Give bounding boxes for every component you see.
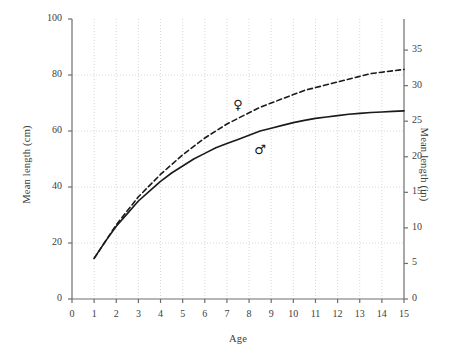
x-tick-label: 13 xyxy=(348,308,372,319)
x-tick-label: 0 xyxy=(60,308,84,319)
y-tick-label-right: 15 xyxy=(412,185,442,196)
x-tick-label: 7 xyxy=(215,308,239,319)
x-tick-label: 4 xyxy=(149,308,173,319)
y-tick-label-left: 20 xyxy=(32,236,62,247)
x-tick-label: 1 xyxy=(82,308,106,319)
y-tick-label-left: 100 xyxy=(32,12,62,23)
y-tick-label-left: 60 xyxy=(32,124,62,135)
x-tick-label: 12 xyxy=(326,308,350,319)
y-tick-label-right: 30 xyxy=(412,79,442,90)
y-tick-label-left: 40 xyxy=(32,180,62,191)
x-tick-label: 6 xyxy=(193,308,217,319)
x-tick-label: 15 xyxy=(392,308,416,319)
x-tick-label: 2 xyxy=(104,308,128,319)
x-tick-label: 9 xyxy=(259,308,283,319)
series-marker-female: ♀ xyxy=(233,97,243,112)
y-tick-label-right: 0 xyxy=(412,292,442,303)
x-tick-label: 5 xyxy=(171,308,195,319)
x-tick-label: 3 xyxy=(126,308,150,319)
x-tick-label: 10 xyxy=(281,308,305,319)
x-tick-label: 8 xyxy=(237,308,261,319)
y-tick-label-right: 5 xyxy=(412,256,442,267)
y-tick-label-left: 80 xyxy=(32,68,62,79)
y-tick-label-right: 10 xyxy=(412,221,442,232)
y-tick-label-right: 25 xyxy=(412,114,442,125)
y-tick-label-right: 35 xyxy=(412,43,442,54)
y-tick-label-right: 20 xyxy=(412,150,442,161)
x-tick-label: 11 xyxy=(303,308,327,319)
y-tick-label-left: 0 xyxy=(32,292,62,303)
series-marker-male: ♂ xyxy=(254,142,266,157)
chart-figure: Mean length (cm) Mean length (in) Age ♀♂… xyxy=(0,0,450,362)
x-tick-label: 14 xyxy=(370,308,394,319)
